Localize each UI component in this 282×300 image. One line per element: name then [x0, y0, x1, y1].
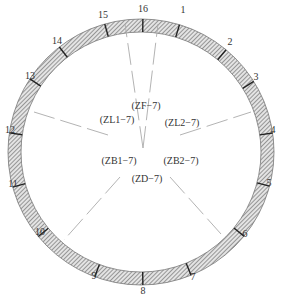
point-label-7: 7	[191, 271, 196, 282]
zone-label-zl1: (ZL1−7)	[100, 114, 135, 126]
point-label-8: 8	[141, 285, 146, 296]
zone-label-zf: (ZF−7)	[132, 100, 161, 112]
point-label-6: 6	[243, 228, 248, 239]
point-label-3: 3	[254, 71, 259, 82]
zone-label-zl2: (ZL2−7)	[165, 117, 200, 129]
zone-label-zb1: (ZB1−7)	[101, 155, 136, 167]
point-label-2: 2	[228, 36, 233, 47]
point-label-4: 4	[271, 124, 276, 135]
point-label-5: 5	[267, 177, 272, 188]
point-label-12: 12	[5, 124, 15, 135]
point-label-11: 11	[8, 178, 18, 189]
point-label-13: 13	[25, 70, 35, 81]
point-label-1: 1	[181, 4, 186, 15]
point-label-16: 16	[138, 3, 148, 14]
zone-label-zb2: (ZB2−7)	[163, 155, 198, 167]
point-label-15: 15	[98, 9, 108, 20]
zone-label-zd: (ZD−7)	[132, 173, 163, 185]
point-label-14: 14	[52, 35, 62, 46]
lining-ring	[0, 0, 282, 300]
tunnel-cross-section-diagram: 12345678910111213141516 (ZF−7)(ZL1−7)(ZL…	[0, 0, 282, 300]
point-label-10: 10	[35, 226, 45, 237]
point-label-9: 9	[92, 270, 97, 281]
